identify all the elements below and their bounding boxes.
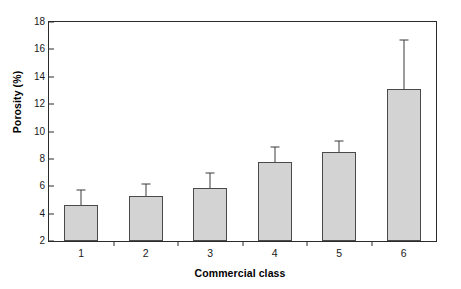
x-tick-mark (371, 241, 372, 246)
error-bar-cap (270, 146, 279, 147)
y-tick-label: 14 (34, 72, 45, 82)
x-tick-label: 5 (336, 248, 342, 259)
x-tick-label: 2 (143, 248, 149, 259)
y-tick-label: 4 (39, 209, 45, 219)
x-axis-title: Commercial class (42, 267, 438, 279)
y-axis-title: Porosity (%) (11, 47, 23, 157)
y-tick-label: 12 (34, 99, 45, 109)
y-tick-label: 6 (39, 181, 45, 191)
bar (64, 205, 98, 241)
error-bar-cap (399, 39, 408, 40)
error-bar-cap (206, 172, 215, 173)
y-tick-label: 16 (34, 44, 45, 54)
y-tick-label: 10 (34, 127, 45, 137)
error-bar-cap (141, 183, 150, 184)
error-bar-stem (210, 173, 211, 188)
porosity-bar-chart-figure: Porosity (%) Commercial class 2468101214… (0, 0, 461, 289)
y-tick-mark (49, 22, 54, 23)
bar (322, 152, 356, 241)
y-tick-mark (49, 104, 54, 105)
y-tick-mark (49, 213, 54, 214)
error-bar-cap (77, 190, 86, 191)
error-bar-stem (81, 190, 82, 205)
y-tick-label: 8 (39, 154, 45, 164)
y-tick-mark (49, 131, 54, 132)
error-bar-stem (403, 40, 404, 89)
x-tick-mark (113, 241, 114, 246)
bar (387, 89, 421, 241)
x-tick-mark (307, 241, 308, 246)
x-tick-label: 4 (272, 248, 278, 259)
y-tick-mark (49, 186, 54, 187)
y-tick-label: 18 (34, 17, 45, 27)
error-bar-stem (145, 184, 146, 196)
error-bar-stem (339, 141, 340, 152)
bar (193, 188, 227, 241)
x-tick-label: 6 (401, 248, 407, 259)
y-tick-mark (49, 158, 54, 159)
bar (258, 162, 292, 241)
y-tick-mark (49, 49, 54, 50)
plot-area: 24681012141618 123456 (48, 21, 437, 242)
y-tick-label: 2 (39, 236, 45, 246)
error-bar-cap (335, 141, 344, 142)
bar (129, 196, 163, 241)
x-tick-label: 1 (78, 248, 84, 259)
y-tick-mark (49, 76, 54, 77)
x-tick-label: 3 (207, 248, 213, 259)
x-tick-mark (178, 241, 179, 246)
x-tick-mark (242, 241, 243, 246)
error-bar-stem (274, 147, 275, 162)
y-tick-mark (49, 241, 54, 242)
